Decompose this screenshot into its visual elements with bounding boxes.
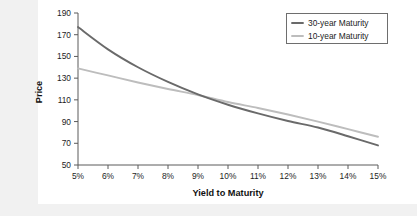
figure-root: 190170150130110907050 5%6%7%8%9%10%11%12… <box>0 0 417 216</box>
y-tick-label: 190 <box>57 8 71 18</box>
chart-legend: 30-year Maturity10-year Maturity <box>287 14 388 44</box>
x-tick-label: 5% <box>72 171 85 181</box>
x-tick-label: 8% <box>162 171 175 181</box>
price-yield-line-chart: 190170150130110907050 5%6%7%8%9%10%11%12… <box>0 0 417 216</box>
y-tick-label: 170 <box>57 30 71 40</box>
x-tick-label: 13% <box>310 171 327 181</box>
x-tick-label: 6% <box>102 171 115 181</box>
y-tick-label: 130 <box>57 73 71 83</box>
series-line-10-year <box>78 68 378 136</box>
y-axis-title: Price <box>34 81 44 103</box>
y-tick-label: 150 <box>57 51 71 61</box>
legend-label: 30-year Maturity <box>308 18 369 28</box>
x-tick-label: 12% <box>280 171 297 181</box>
y-tick-label: 50 <box>62 160 72 170</box>
x-tick-label: 14% <box>340 171 357 181</box>
series-line-30-year <box>78 27 378 145</box>
x-tick-label: 11% <box>250 171 267 181</box>
x-tick-label: 7% <box>132 171 145 181</box>
y-tick-label: 90 <box>62 117 72 127</box>
x-tick-label: 10% <box>220 171 237 181</box>
legend-label: 10-year Maturity <box>308 31 369 41</box>
y-tick-label: 110 <box>58 95 72 105</box>
x-axis-tick-group: 5%6%7%8%9%10%11%12%13%14%15% <box>72 165 387 181</box>
x-axis-title: Yield to Maturity <box>192 188 264 198</box>
x-tick-label: 15% <box>370 171 387 181</box>
y-axis-tick-group: 190170150130110907050 <box>57 8 78 170</box>
x-tick-label: 9% <box>192 171 205 181</box>
series-group <box>78 27 378 145</box>
y-tick-label: 70 <box>62 138 72 148</box>
